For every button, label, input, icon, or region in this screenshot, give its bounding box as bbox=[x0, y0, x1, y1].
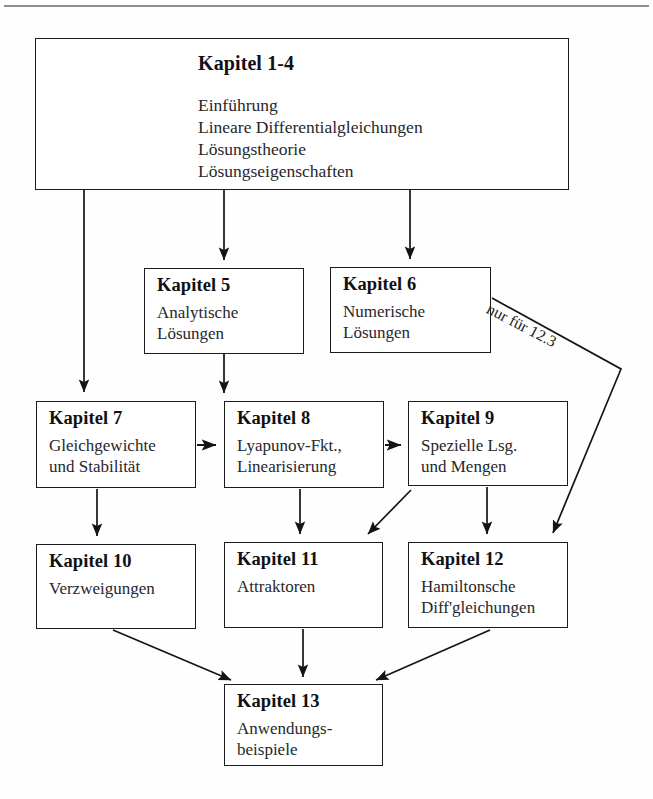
edge-10-to-13 bbox=[113, 630, 231, 680]
chapter-box-12-body: Hamiltonsche Diff'gleichungen bbox=[421, 577, 567, 618]
chapter-box-7-body: Gleichgewichte und Stabilität bbox=[49, 436, 195, 477]
chapter-box-13[interactable]: Kapitel 13 Anwendungs- beispiele bbox=[224, 684, 383, 766]
chapter-box-13-title: Kapitel 13 bbox=[237, 692, 382, 711]
chapter-box-11-body: Attraktoren bbox=[237, 577, 382, 597]
chapter-box-8-body: Lyapunov-Fkt., Linearisierung bbox=[237, 436, 383, 477]
chapter-box-5-body: Analytische Lösungen bbox=[157, 303, 303, 344]
chapter-box-1-4-body: Einführung Lineare Differentialgleichung… bbox=[198, 94, 568, 182]
chapter-box-10-body: Verzweigungen bbox=[49, 579, 195, 599]
chapter-box-8-title: Kapitel 8 bbox=[237, 409, 383, 428]
chapter-box-9-title: Kapitel 9 bbox=[421, 409, 567, 428]
chapter-box-12-title: Kapitel 12 bbox=[421, 550, 567, 569]
chapter-box-8[interactable]: Kapitel 8 Lyapunov-Fkt., Linearisierung bbox=[224, 401, 384, 488]
chapter-box-11-title: Kapitel 11 bbox=[237, 550, 382, 569]
chapter-box-6[interactable]: Kapitel 6 Numerische Lösungen bbox=[330, 267, 491, 353]
chapter-box-13-body: Anwendungs- beispiele bbox=[237, 719, 382, 760]
chapter-box-11[interactable]: Kapitel 11 Attraktoren bbox=[224, 542, 383, 628]
chapter-box-9-body: Spezielle Lsg. und Mengen bbox=[421, 436, 567, 477]
chapter-box-5-title: Kapitel 5 bbox=[157, 276, 303, 295]
chapter-box-7-title: Kapitel 7 bbox=[49, 409, 195, 428]
chapter-box-10[interactable]: Kapitel 10 Verzweigungen bbox=[36, 544, 196, 629]
chapter-box-1-4[interactable]: Kapitel 1-4 Einführung Lineare Different… bbox=[35, 38, 569, 190]
chapter-box-5[interactable]: Kapitel 5 Analytische Lösungen bbox=[144, 268, 304, 354]
chapter-box-6-title: Kapitel 6 bbox=[343, 275, 490, 294]
chapter-box-6-body: Numerische Lösungen bbox=[343, 302, 490, 343]
chapter-box-9[interactable]: Kapitel 9 Spezielle Lsg. und Mengen bbox=[408, 401, 568, 486]
chapter-box-1-4-title: Kapitel 1-4 bbox=[198, 53, 568, 74]
chapter-box-10-title: Kapitel 10 bbox=[49, 552, 195, 571]
edge-9-to-11 bbox=[368, 490, 411, 534]
diagram-canvas: Kapitel 1-4 Einführung Lineare Different… bbox=[0, 0, 653, 799]
chapter-box-12[interactable]: Kapitel 12 Hamiltonsche Diff'gleichungen bbox=[408, 542, 568, 628]
edge-12-to-13 bbox=[376, 630, 490, 680]
chapter-box-7[interactable]: Kapitel 7 Gleichgewichte und Stabilität bbox=[36, 401, 196, 488]
